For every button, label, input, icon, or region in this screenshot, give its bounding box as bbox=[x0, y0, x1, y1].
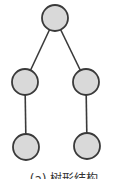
tree-diagram bbox=[0, 0, 128, 179]
node-left-child bbox=[12, 69, 38, 95]
node-right-child bbox=[73, 69, 99, 95]
node-right-grandchild bbox=[74, 133, 100, 159]
node-left-grandchild bbox=[13, 134, 39, 160]
diagram-caption: (a) 树形结构 bbox=[0, 172, 128, 179]
node-root bbox=[42, 5, 68, 31]
